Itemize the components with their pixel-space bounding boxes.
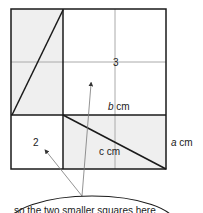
a-length-label: a cm	[171, 137, 193, 148]
region-2-label: 2	[33, 137, 39, 148]
pythagoras-diagram: 3 2 b cm c cm a cm so the two smaller sq…	[0, 0, 203, 213]
c-length-label: c cm	[99, 146, 120, 157]
b-length-label: b cm	[108, 101, 130, 112]
region-3-label: 3	[113, 57, 119, 68]
callout-text: so the two smaller squares here	[14, 205, 156, 213]
